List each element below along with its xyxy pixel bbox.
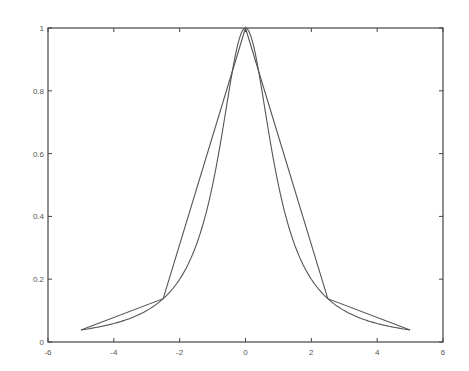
chart: -6-4-20246 00.20.40.60.81 [0,0,469,371]
y-axis-ticks: 00.20.40.60.81 [33,24,443,347]
y-tick-label: 1 [40,24,45,33]
x-tick-label: 0 [243,348,248,357]
y-tick-label: 0.8 [33,87,45,96]
plot-area [48,28,443,342]
y-tick-label: 0.2 [33,275,45,284]
x-tick-label: -6 [44,348,52,357]
interpolant-polyline [81,28,410,330]
data-series [81,28,410,330]
x-tick-label: 2 [309,348,314,357]
plot-frame [48,28,443,342]
x-tick-label: -2 [176,348,184,357]
y-tick-label: 0.4 [33,212,45,221]
x-tick-label: 6 [441,348,446,357]
y-tick-label: 0 [40,338,45,347]
x-tick-label: 4 [375,348,380,357]
function-curve [81,28,410,330]
y-tick-label: 0.6 [33,150,45,159]
x-tick-label: -4 [110,348,118,357]
x-axis-ticks: -6-4-20246 [44,28,445,357]
